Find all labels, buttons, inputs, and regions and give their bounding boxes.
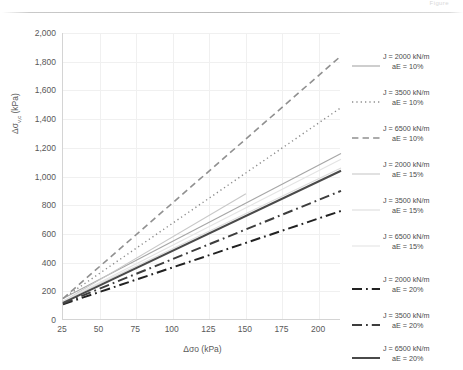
- y-axis-title-sub: v,c: [16, 116, 22, 123]
- x-tick-label: 50: [79, 324, 119, 334]
- chart-legend: J = 2000 kN/maE = 10%J = 3500 kN/maE = 1…: [350, 44, 463, 364]
- legend-item[interactable]: J = 2000 kN/maE = 10%: [350, 52, 463, 82]
- y-tick-label: 600: [42, 229, 56, 239]
- legend-label: J = 6500 kN/maE = 20%: [383, 344, 463, 364]
- x-tick-label: 200: [298, 324, 338, 334]
- y-tick-label: 400: [42, 258, 56, 268]
- plot-area: [62, 33, 340, 320]
- y-tick-label: 1,600: [35, 85, 56, 95]
- series-line: [63, 211, 341, 304]
- legend-item[interactable]: J = 3500 kN/maE = 20%: [350, 311, 463, 341]
- legend-label: J = 2000 kN/maE = 15%: [383, 160, 463, 180]
- y-axis-tick-labels: 02004006008001,0001,2001,4001,6001,8002,…: [0, 14, 62, 370]
- series-line: [63, 159, 341, 301]
- y-tick-label: 2,000: [35, 28, 56, 38]
- x-tick-label: 150: [225, 324, 265, 334]
- legend-line-swatch: [352, 201, 380, 211]
- legend-label: J = 2000 kN/maE = 10%: [383, 52, 463, 72]
- legend-label-line2: aE = 10%: [392, 134, 463, 144]
- series-line: [63, 171, 341, 303]
- y-axis-title-main: Δσ: [10, 123, 20, 134]
- legend-item[interactable]: J = 3500 kN/maE = 15%: [350, 196, 463, 226]
- legend-label-line2: aE = 20%: [392, 354, 463, 364]
- y-tick-label: 1,200: [35, 143, 56, 153]
- legend-line-swatch: [352, 93, 380, 103]
- x-tick-label: 125: [188, 324, 228, 334]
- legend-label-line1: J = 6500 kN/m: [383, 232, 430, 241]
- legend-label-line1: J = 3500 kN/m: [383, 196, 430, 205]
- legend-line-swatch: [352, 57, 380, 67]
- legend-item[interactable]: J = 6500 kN/maE = 15%: [350, 232, 463, 262]
- legend-item[interactable]: J = 6500 kN/maE = 20%: [350, 344, 463, 370]
- legend-label-line1: J = 6500 kN/m: [383, 124, 430, 133]
- legend-label-line2: aE = 15%: [392, 206, 463, 216]
- chart-figure: 02004006008001,0001,2001,4001,6001,8002,…: [0, 14, 463, 370]
- legend-label-line1: J = 3500 kN/m: [383, 311, 430, 320]
- x-tick-label: 100: [152, 324, 192, 334]
- x-tick-label: 75: [115, 324, 155, 334]
- series-line: [63, 168, 341, 301]
- y-axis-title-unit: (kPa): [10, 93, 20, 116]
- y-tick-label: 200: [42, 286, 56, 296]
- x-tick-label: 25: [42, 324, 82, 334]
- legend-line-swatch: [352, 237, 380, 247]
- legend-label-line1: J = 2000 kN/m: [383, 160, 430, 169]
- legend-label-line1: J = 3500 kN/m: [383, 88, 430, 97]
- legend-label: J = 6500 kN/maE = 10%: [383, 124, 463, 144]
- header-divider: [2, 12, 463, 13]
- legend-label: J = 6500 kN/maE = 15%: [383, 232, 463, 252]
- legend-label-line2: aE = 10%: [392, 98, 463, 108]
- legend-item[interactable]: J = 2000 kN/maE = 15%: [350, 160, 463, 190]
- y-tick-label: 800: [42, 200, 56, 210]
- legend-label-line1: J = 6500 kN/m: [383, 344, 430, 353]
- x-axis-title-text: Δσο (kPa): [183, 344, 221, 354]
- x-tick-label: 175: [261, 324, 301, 334]
- page-header: Figure: [0, 0, 463, 14]
- legend-label-line2: aE = 10%: [392, 62, 463, 72]
- legend-item[interactable]: J = 2000 kN/maE = 20%: [350, 275, 463, 305]
- legend-label-line2: aE = 15%: [392, 170, 463, 180]
- y-tick-label: 1,000: [35, 172, 56, 182]
- legend-line-swatch: [352, 349, 380, 359]
- series-line: [63, 191, 341, 304]
- series-lines: [63, 33, 341, 320]
- series-line: [63, 194, 246, 302]
- y-axis-title: Δσv,c (kPa): [10, 93, 22, 134]
- legend-label: J = 3500 kN/maE = 10%: [383, 88, 463, 108]
- legend-line-swatch: [352, 280, 380, 290]
- page-header-text: Figure: [430, 0, 449, 6]
- y-tick-label: 1,400: [35, 114, 56, 124]
- legend-line-swatch: [352, 129, 380, 139]
- legend-label-line2: aE = 20%: [392, 285, 463, 295]
- legend-label-line2: aE = 20%: [392, 321, 463, 331]
- series-line: [63, 56, 341, 299]
- y-tick-label: 1,800: [35, 57, 56, 67]
- legend-label-line2: aE = 15%: [392, 242, 463, 252]
- legend-item[interactable]: J = 3500 kN/maE = 10%: [350, 88, 463, 118]
- legend-label-line1: J = 2000 kN/m: [383, 275, 430, 284]
- legend-label: J = 3500 kN/maE = 15%: [383, 196, 463, 216]
- legend-item[interactable]: J = 6500 kN/maE = 10%: [350, 124, 463, 154]
- series-line: [63, 108, 341, 299]
- legend-line-swatch: [352, 316, 380, 326]
- legend-label-line1: J = 2000 kN/m: [383, 52, 430, 61]
- legend-label: J = 3500 kN/maE = 20%: [383, 311, 463, 331]
- legend-line-swatch: [352, 165, 380, 175]
- legend-label: J = 2000 kN/maE = 20%: [383, 275, 463, 295]
